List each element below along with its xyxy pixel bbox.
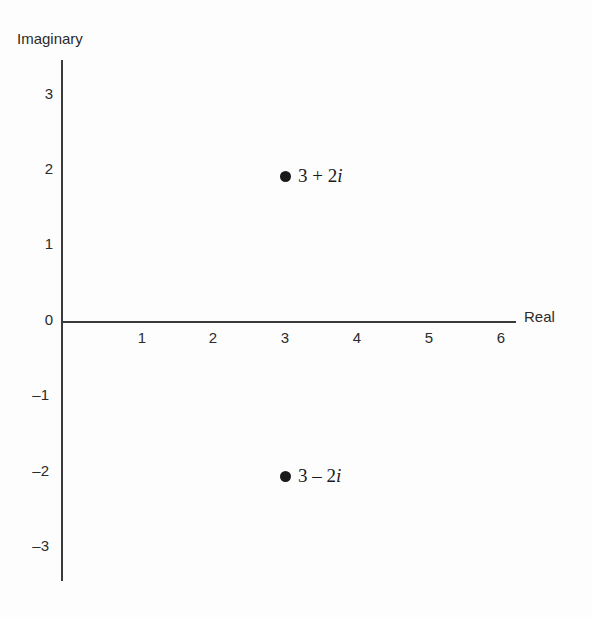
point-marker-icon (280, 471, 291, 482)
y-tick-label-neg2: –2 (23, 462, 49, 479)
complex-plane-chart: Imaginary Real 3 2 1 0 –1 –2 –3 1 2 3 4 … (0, 0, 592, 617)
x-tick-label-5: 5 (416, 329, 442, 346)
data-point-3-plus-2i: 3 + 2i (280, 165, 343, 187)
x-tick-label-3: 3 (272, 329, 298, 346)
x-tick-label-2: 2 (200, 329, 226, 346)
data-point-label: 3 – 2i (298, 465, 341, 487)
y-tick-label-2: 2 (27, 160, 53, 177)
x-tick-label-4: 4 (344, 329, 370, 346)
x-tick-label-1: 1 (129, 329, 155, 346)
imaginary-unit: i (336, 465, 341, 486)
point-operator: + (312, 165, 323, 186)
y-tick-label-3: 3 (27, 85, 53, 102)
imaginary-unit: i (337, 165, 342, 186)
point-real-part: 3 (298, 165, 308, 186)
x-tick-label-6: 6 (488, 329, 514, 346)
y-tick-label-1: 1 (27, 235, 53, 252)
data-point-3-minus-2i: 3 – 2i (280, 465, 341, 487)
y-tick-label-neg1: –1 (23, 386, 49, 403)
point-operator: – (312, 465, 322, 486)
y-tick-label-0: 0 (27, 311, 53, 328)
real-axis-label: Real (524, 308, 555, 325)
point-imaginary-part: 2 (327, 465, 337, 486)
y-tick-label-neg3: –3 (23, 537, 49, 554)
data-point-label: 3 + 2i (298, 165, 343, 187)
real-axis-line (62, 321, 516, 323)
point-real-part: 3 (298, 465, 308, 486)
point-imaginary-part: 2 (328, 165, 338, 186)
imaginary-axis-label: Imaginary (17, 30, 83, 47)
point-marker-icon (280, 171, 291, 182)
